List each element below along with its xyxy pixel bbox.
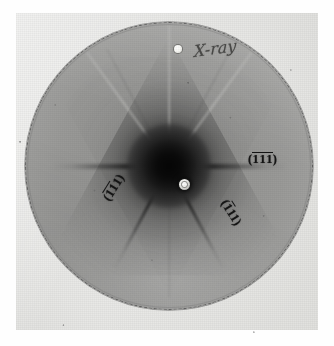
label-index-3: 1 xyxy=(266,152,273,166)
beam-stop xyxy=(179,179,190,190)
beam-stop-ring xyxy=(181,181,187,187)
label-close-paren: ) xyxy=(273,152,277,166)
print-sheet: X-ray (111) (111) (111) xyxy=(0,0,334,346)
label-index-2: 1 xyxy=(259,152,266,166)
reference-marker-dot xyxy=(174,45,182,53)
miller-index-label-right: (111) xyxy=(248,152,277,167)
photograph-area: X-ray (111) (111) (111) xyxy=(16,13,318,330)
